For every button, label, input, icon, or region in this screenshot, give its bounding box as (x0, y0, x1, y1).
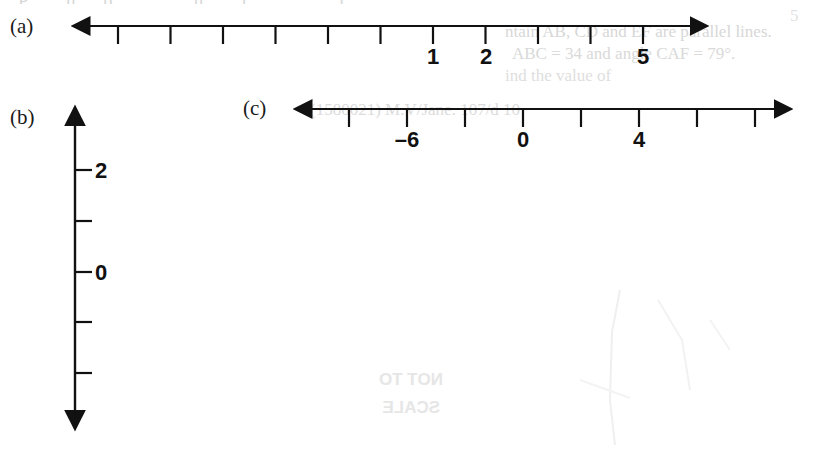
part-label-a: (a) (10, 14, 33, 39)
tick-marks-a (118, 26, 643, 44)
tick-label-a-2: 2 (471, 44, 501, 70)
tick-label-c-0: 0 (508, 127, 538, 153)
part-label-b: (b) (10, 105, 35, 130)
ghost-top-cut-text: P h p n l l (18, 0, 538, 4)
tick-label-b-0: 0 (95, 260, 107, 286)
ghost-text-line-3: ind the value of (505, 66, 611, 86)
ghost-corner-mark: 5 (790, 6, 799, 26)
tick-label-c-4: 4 (624, 127, 654, 153)
tick-label-b-2: 2 (95, 158, 107, 184)
tick-label-a-1: 1 (418, 44, 448, 70)
tick-label-c-minus6: –6 (387, 127, 427, 153)
tick-marks-b (75, 170, 92, 373)
tick-label-a-5: 5 (628, 44, 658, 70)
ghost-not-to-scale-line-2: SCALE (382, 398, 440, 418)
number-line-c (282, 97, 812, 137)
ghost-not-to-scale-line-1: NOT TO (379, 370, 443, 390)
ghost-diagram-strokes (560, 280, 800, 450)
part-label-c: (c) (243, 96, 266, 121)
tick-marks-c (349, 109, 755, 127)
figure-canvas: P h p n l l ntain AB, CD and EF are para… (0, 0, 829, 451)
